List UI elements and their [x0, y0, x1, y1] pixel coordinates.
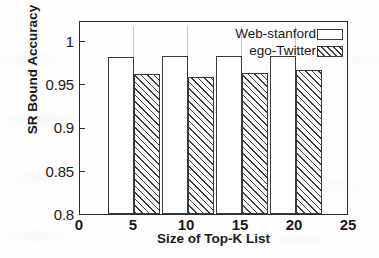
bar-ego-twitter-k20	[296, 70, 322, 214]
bar-ego-twitter-k15	[242, 73, 268, 214]
bar-web-stanford-k10	[162, 56, 188, 214]
bar-web-stanford-k5	[108, 57, 134, 214]
legend-entry-web-stanford: Web-stanford	[235, 26, 343, 42]
legend-label-web-stanford: Web-stanford	[235, 26, 316, 42]
y-axis-title: SR Bound Accuracy	[25, 0, 40, 150]
plot-area: Web-stanford ego-Twitter	[79, 21, 348, 215]
legend-label-ego-twitter: ego-Twitter	[249, 43, 316, 59]
bar-ego-twitter-k10	[188, 77, 214, 214]
bar-web-stanford-k20	[270, 56, 296, 214]
legend-entry-ego-twitter: ego-Twitter	[249, 43, 343, 59]
y-tick-label-085: 0.85	[24, 163, 74, 180]
bar-web-stanford-k15	[216, 56, 242, 214]
legend-swatch-hatched-icon	[317, 46, 343, 57]
chart-legend: Web-stanford ego-Twitter	[231, 24, 345, 61]
x-axis-title: Size of Top-K List	[79, 231, 348, 246]
bar-ego-twitter-k5	[134, 74, 160, 214]
chart-figure: 1 0.95 0.9 0.85 0.8 0 5 10 15 20 25 SR B…	[0, 0, 379, 258]
legend-swatch-empty-icon	[317, 29, 343, 40]
